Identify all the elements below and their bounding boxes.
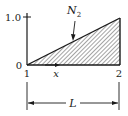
node-label-2: 2 [116, 68, 122, 79]
y-tick-label-1: 1.0 [5, 12, 21, 23]
length-label: L [68, 97, 76, 110]
x-label: x [53, 68, 59, 79]
function-label: N2 [66, 4, 81, 19]
shape-function-diagram: 1.0 0 N2 1 2 x L [0, 0, 128, 116]
node-label-1: 1 [24, 68, 30, 79]
label-pointer-arrowhead [71, 34, 76, 41]
dimension-arrowhead-left [28, 101, 34, 105]
dimension-arrowhead-right [112, 101, 118, 105]
y-tick-label-0: 0 [16, 60, 22, 71]
